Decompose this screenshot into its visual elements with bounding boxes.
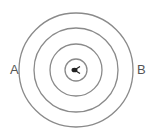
label-a: A (10, 63, 19, 76)
label-b: B (137, 63, 146, 76)
concentric-circles-diagram (0, 0, 160, 131)
center-source-icon (72, 67, 81, 74)
